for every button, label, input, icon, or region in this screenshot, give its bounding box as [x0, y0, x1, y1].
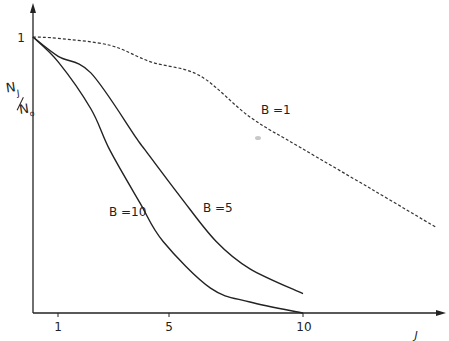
y-label-numerator-sub: J	[15, 88, 20, 98]
chart: 1 5 10 J 1 N J N o B =1 B =5 B =10	[0, 0, 449, 341]
curve-b5	[33, 37, 303, 294]
x-tick-label-10: 10	[296, 320, 311, 334]
curve-b1	[33, 37, 436, 227]
x-tick-label-1: 1	[54, 320, 62, 334]
x-tick-label-5: 5	[165, 320, 173, 334]
x-axis-arrow-icon	[436, 310, 446, 316]
curve-b10	[33, 37, 303, 313]
x-axis-label: J	[412, 329, 417, 341]
y-axis-arrow-icon	[30, 3, 36, 13]
series-label-b5: B =5	[203, 201, 233, 215]
y-axis-label: N J N o	[5, 77, 35, 121]
y-label-denominator: N	[18, 101, 30, 117]
series-label-b10: B =10	[109, 205, 146, 219]
y-label-numerator: N	[5, 79, 17, 95]
y-tick-label-1: 1	[17, 31, 25, 45]
smudge-mark	[255, 136, 261, 140]
series-label-b1: B =1	[261, 103, 291, 117]
y-label-denominator-sub: o	[29, 109, 35, 119]
